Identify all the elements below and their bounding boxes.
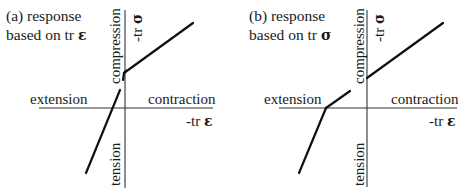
response-line-lower <box>299 108 326 173</box>
panel-b-title: (b) response based on tr σ <box>249 6 331 45</box>
panel-a-title-line2: based on tr ε <box>6 25 86 45</box>
epsilon-symbol: ε <box>447 113 456 129</box>
x-axis-label: -tr ε <box>186 113 212 129</box>
contraction-label: contraction <box>391 91 458 107</box>
x-axis-label: -tr ε <box>429 113 455 129</box>
panel-b-title-line2: based on tr σ <box>249 25 331 45</box>
panel-a-title-line1: (a) response <box>6 6 86 25</box>
tension-label: tension <box>107 143 123 186</box>
panel-a: (a) response based on tr ε extension con… <box>0 0 233 195</box>
sigma-symbol: σ <box>371 14 387 24</box>
y-axis-label: -tr σ <box>129 14 145 42</box>
tension-label: tension <box>351 143 367 186</box>
sigma-symbol: σ <box>129 14 145 24</box>
compression-label: compression <box>107 8 123 84</box>
epsilon-symbol: ε <box>78 27 87 43</box>
panel-b-title-line1: (b) response <box>249 6 331 25</box>
epsilon-symbol: ε <box>204 113 213 129</box>
panel-a-title: (a) response based on tr ε <box>6 6 86 45</box>
extension-label: extension <box>264 91 322 107</box>
response-line-middle <box>326 91 350 108</box>
sigma-symbol: σ <box>321 27 331 43</box>
contraction-label: contraction <box>148 91 215 107</box>
compression-label: compression <box>351 8 367 84</box>
y-axis-label: -tr σ <box>371 14 387 42</box>
panel-b: (b) response based on tr σ extension con… <box>237 0 467 195</box>
extension-label: extension <box>30 91 88 107</box>
